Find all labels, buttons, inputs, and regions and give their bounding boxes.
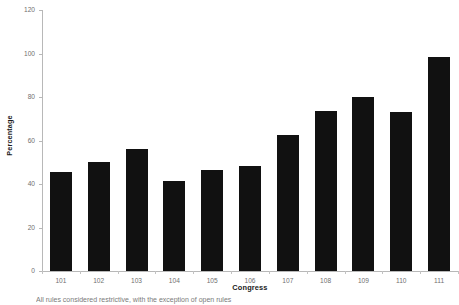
y-tick: 40 [0, 184, 42, 185]
bar [201, 170, 223, 271]
y-tick-label: 100 [24, 49, 35, 58]
y-tick: 120 [0, 10, 42, 11]
y-tick-label: 0 [31, 266, 35, 275]
x-tick-mark [307, 271, 308, 274]
y-tick-label: 60 [28, 136, 35, 145]
x-tick-mark [345, 271, 346, 274]
x-axis-title: Congress [42, 283, 458, 292]
x-tick-mark [118, 271, 119, 274]
x-tick-mark [382, 271, 383, 274]
y-tick: 20 [0, 228, 42, 229]
bar [277, 135, 299, 271]
x-tick-mark [42, 271, 43, 274]
y-tick-label: 120 [24, 5, 35, 14]
y-axis-title-label: Percentage [5, 115, 14, 155]
y-tick-label: 80 [28, 92, 35, 101]
x-tick-mark [155, 271, 156, 274]
bars-layer [42, 10, 458, 271]
bar [239, 166, 261, 271]
y-axis-title: Percentage [0, 0, 18, 271]
bar [390, 112, 412, 271]
x-tick-mark [80, 271, 81, 274]
x-tick-mark [420, 271, 421, 274]
bar [428, 57, 450, 271]
y-tick: 80 [0, 97, 42, 98]
x-tick-mark [231, 271, 232, 274]
y-tick-label: 40 [28, 179, 35, 188]
bar [88, 162, 110, 271]
bar [50, 172, 72, 271]
bar [163, 181, 185, 271]
y-tick: 60 [0, 141, 42, 142]
x-tick-mark [269, 271, 270, 274]
x-tick-mark [193, 271, 194, 274]
bar [315, 111, 337, 271]
figure-caption: All rules considered restrictive, with t… [36, 295, 436, 305]
y-tick: 0 [0, 271, 42, 272]
y-tick-label: 20 [28, 223, 35, 232]
bar [352, 97, 374, 271]
y-tick: 100 [0, 54, 42, 55]
bar [126, 149, 148, 271]
